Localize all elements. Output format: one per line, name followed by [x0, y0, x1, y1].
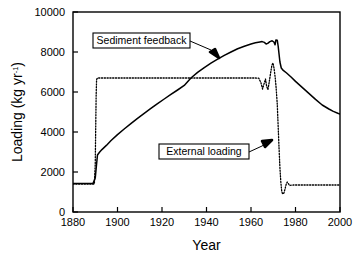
x-tick-label-1920: 1920: [150, 216, 174, 228]
y-axis-title: Loading (kg yr-1): [9, 62, 25, 162]
annotation-arrow-external-loading: [262, 140, 272, 147]
x-tick-label-1940: 1940: [194, 216, 218, 228]
y-tick-label-6000: 6000: [41, 86, 65, 98]
x-tick-label-1980: 1980: [283, 216, 307, 228]
series-line-1: [73, 40, 340, 184]
annotation-label-sediment-feedback: Sediment feedback: [97, 34, 188, 46]
y-tick-label-4000: 4000: [41, 126, 65, 138]
annotation-arrow-sediment-feedback: [210, 49, 219, 58]
y-axis-title-base: Loading (kg yr: [9, 73, 25, 162]
series-line-2: [73, 63, 340, 194]
y-tick-label-2000: 2000: [41, 166, 65, 178]
annotation-external-loading: External loading: [159, 140, 272, 159]
annotation-sediment-feedback: Sediment feedback: [93, 33, 219, 58]
y-axis-title-close: ): [9, 62, 25, 67]
y-tick-label-10000: 10000: [34, 6, 65, 18]
x-tick-label-1880: 1880: [61, 216, 85, 228]
x-tick-label-1960: 1960: [239, 216, 263, 228]
x-tick-label-1900: 1900: [105, 216, 129, 228]
loading-vs-year-chart: 0200040006000800010000188019001920194019…: [0, 0, 355, 263]
x-tick-label-2000: 2000: [328, 216, 352, 228]
y-tick-label-8000: 8000: [41, 46, 65, 58]
y-axis-title-superscript: -1: [11, 67, 20, 74]
x-axis-title: Year: [192, 237, 221, 253]
figure-container: 0200040006000800010000188019001920194019…: [0, 0, 355, 263]
annotation-label-external-loading: External loading: [166, 145, 241, 157]
